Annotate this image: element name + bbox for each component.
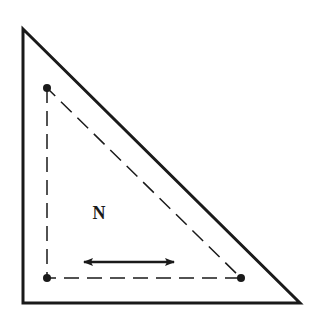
triangle-diagram: N bbox=[0, 0, 314, 316]
bottom-left-point bbox=[43, 274, 51, 282]
top-left-point bbox=[43, 84, 51, 92]
inner-dashed-triangle bbox=[47, 88, 241, 278]
bottom-right-point bbox=[237, 274, 245, 282]
label-n: N bbox=[93, 203, 106, 223]
